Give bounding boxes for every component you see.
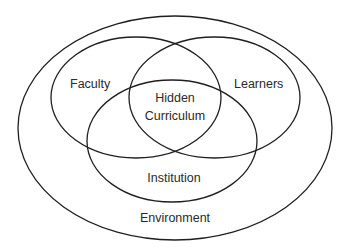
faculty-label: Faculty [70,77,111,91]
venn-diagram: Faculty Learners Hidden Curriculum Insti… [0,0,348,252]
faculty-ellipse [51,37,221,158]
hidden-curriculum-label-line1: Hidden [155,91,195,105]
environment-ellipse [18,16,332,240]
learners-label: Learners [234,77,283,91]
environment-label: Environment [140,211,211,225]
hidden-curriculum-label-line2: Curriculum [145,109,205,123]
institution-label: Institution [147,171,201,185]
